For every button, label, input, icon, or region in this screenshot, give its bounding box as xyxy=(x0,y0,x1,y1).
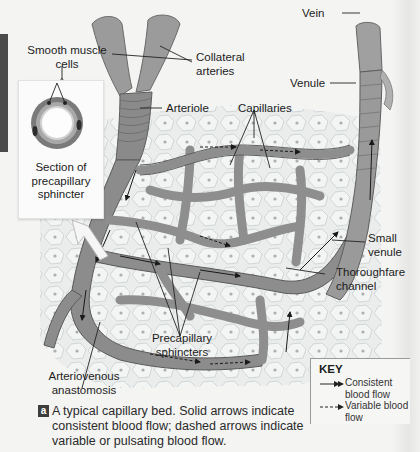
legend-key: KEY Consistent blood flow Variable blood… xyxy=(310,358,410,424)
collateral-artery-right xyxy=(136,15,180,92)
legend-label-variable: Variable blood flow xyxy=(345,400,410,423)
legend-item-consistent: Consistent blood flow xyxy=(319,377,410,400)
label-small-venule: Small venule xyxy=(368,232,408,259)
label-venule: Venule xyxy=(290,77,325,91)
label-smooth-muscle-cells: Smooth muscle cells xyxy=(22,44,112,71)
label-vein: Vein xyxy=(302,7,324,21)
sphincter-section-inset: Section of precapillary sphincter xyxy=(18,80,104,219)
label-capillaries: Capillaries xyxy=(238,102,292,116)
label-precapillary-sphincters: Precapillary sphincters xyxy=(142,332,222,359)
label-arteriovenous-anastomosis: Arteriovenous anastomosis xyxy=(44,370,124,397)
legend-item-variable: Variable blood flow xyxy=(319,400,410,423)
vein-vessel xyxy=(356,22,382,72)
label-collateral-arteries: Collateral arteries xyxy=(196,51,256,78)
label-arteriole: Arteriole xyxy=(166,102,209,116)
legend-title: KEY xyxy=(319,363,410,375)
legend-label-consistent: Consistent blood flow xyxy=(345,377,410,400)
dashed-arrow-icon xyxy=(319,403,345,411)
panel-letter-badge: a xyxy=(38,405,49,417)
caption-text: A typical capillary bed. Solid arrows in… xyxy=(52,404,304,448)
figure-caption: a A typical capillary bed. Solid arrows … xyxy=(52,404,322,449)
label-section-of-precapillary-sphincter: Section of precapillary sphincter xyxy=(19,161,103,202)
sphincter-cross-section-icon xyxy=(19,81,103,161)
solid-arrow-icon xyxy=(319,380,345,388)
label-thoroughfare-channel: Thoroughfare channel xyxy=(336,266,406,293)
